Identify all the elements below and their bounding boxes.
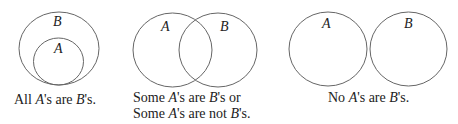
label-b: B (404, 17, 413, 31)
caption-some-line1: Some A's are B's or (133, 90, 241, 106)
caption-none: No A's are B's. (328, 90, 409, 106)
label-a: A (161, 20, 170, 34)
label-a: A (322, 17, 331, 31)
circle-b-overlap (179, 13, 257, 87)
caption-some-line2: Some A's are not B's. (133, 106, 250, 122)
label-a: A (54, 42, 63, 56)
label-b: B (220, 20, 229, 34)
label-b: B (53, 15, 62, 29)
circle-a-overlap (133, 13, 212, 87)
caption-all: All A's are B's. (14, 92, 96, 108)
